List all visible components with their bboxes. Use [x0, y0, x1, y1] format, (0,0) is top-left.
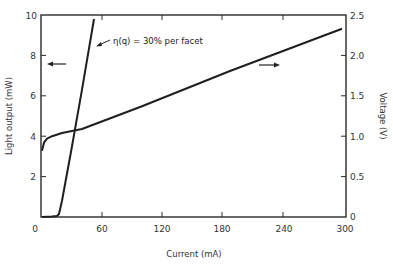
x-tick-60: 60 [96, 224, 108, 234]
y2-axis-ticks [341, 55, 346, 176]
y-tick-10: 10 [26, 11, 38, 21]
x-axis-tick-labels: 0 60 120 180 240 300 [32, 224, 354, 234]
y2-axis-label: Voltage (V) [378, 92, 388, 139]
left-axis-arrow-icon [47, 62, 66, 67]
y2-tick-2.0: 2.0 [350, 51, 365, 61]
y2-tick-0: 0 [350, 212, 356, 222]
y-tick-2: 2 [30, 172, 36, 182]
light-output-curve [42, 19, 94, 217]
voltage-curve [42, 29, 342, 151]
y-axis-tick-labels: 2 4 6 8 10 [26, 11, 38, 182]
right-axis-arrow-icon [259, 63, 280, 68]
x-tick-240: 240 [275, 224, 292, 234]
y2-axis-tick-labels: 0 0.5 1.0 1.5 2.0 2.5 [350, 11, 365, 222]
x-tick-120: 120 [153, 224, 170, 234]
efficiency-annotation-arrow-icon [96, 40, 110, 47]
y2-tick-1.0: 1.0 [350, 132, 365, 142]
y-tick-6: 6 [30, 91, 36, 101]
chart: 0 60 120 180 240 300 2 4 6 8 10 0 0.5 1.… [0, 0, 393, 264]
y-axis-label: Light output (mW) [4, 77, 14, 155]
x-axis-label: Current (mA) [166, 249, 221, 259]
y-tick-8: 8 [30, 51, 36, 61]
efficiency-annotation: η(q) = 30% per facet [113, 36, 203, 46]
x-tick-180: 180 [213, 224, 230, 234]
x-tick-300: 300 [336, 224, 353, 234]
x-tick-0: 0 [32, 224, 38, 234]
y2-tick-2.5: 2.5 [350, 11, 364, 21]
y2-tick-0.5: 0.5 [350, 172, 364, 182]
y-axis-ticks [41, 55, 46, 176]
y2-tick-1.5: 1.5 [350, 91, 364, 101]
y-tick-4: 4 [30, 132, 36, 142]
